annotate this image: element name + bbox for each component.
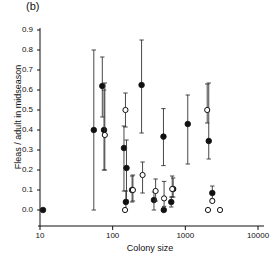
marker-open-circle	[161, 196, 166, 201]
marker-open-circle	[217, 207, 222, 212]
error-bar	[122, 126, 126, 191]
marker-open-circle	[210, 198, 215, 203]
marker-filled-circle	[161, 134, 167, 140]
data-point	[139, 40, 145, 133]
data-point	[140, 162, 145, 193]
marker-filled-circle	[161, 207, 167, 213]
data-point	[205, 207, 210, 212]
data-point	[121, 126, 127, 191]
marker-filled-circle	[101, 127, 107, 133]
data-point	[161, 181, 166, 206]
marker-open-circle	[205, 107, 210, 112]
data-point	[185, 95, 191, 164]
data-point	[209, 186, 215, 199]
series-filled	[40, 40, 215, 213]
error-bar	[103, 83, 107, 170]
marker-filled-circle	[124, 165, 130, 171]
data-point	[170, 176, 175, 197]
data-point	[91, 50, 97, 210]
x-axis-ticks	[40, 226, 258, 230]
marker-open-circle	[153, 188, 158, 193]
data-point	[122, 207, 127, 212]
marker-filled-circle	[123, 199, 129, 205]
data-point	[130, 175, 135, 201]
error-bar	[162, 181, 166, 206]
data-point	[40, 207, 46, 213]
figure-panel-b: (b) Fleas / adult in midseason Colony si…	[0, 0, 271, 265]
data-point	[161, 109, 167, 166]
error-bar	[186, 95, 190, 164]
marker-open-circle	[130, 187, 135, 192]
marker-open-circle	[122, 207, 127, 212]
marker-open-circle	[140, 172, 145, 177]
data-point	[210, 198, 215, 203]
marker-filled-circle	[185, 121, 191, 127]
scatter-plot-canvas	[0, 0, 271, 265]
marker-filled-circle	[91, 127, 97, 133]
axis-spines	[38, 28, 264, 226]
series-open	[102, 83, 222, 213]
marker-filled-circle	[40, 207, 46, 213]
marker-filled-circle	[168, 199, 174, 205]
data-point	[102, 83, 107, 170]
marker-filled-circle	[209, 190, 215, 196]
data-point	[168, 197, 174, 207]
marker-open-circle	[123, 107, 128, 112]
marker-open-circle	[102, 132, 107, 137]
marker-filled-circle	[139, 82, 145, 88]
data-point	[123, 93, 128, 127]
marker-filled-circle	[206, 138, 212, 144]
data-point	[217, 207, 222, 212]
data-point	[161, 207, 167, 213]
marker-open-circle	[205, 207, 210, 212]
marker-filled-circle	[99, 83, 105, 89]
marker-filled-circle	[121, 145, 127, 151]
marker-open-circle	[170, 186, 175, 191]
